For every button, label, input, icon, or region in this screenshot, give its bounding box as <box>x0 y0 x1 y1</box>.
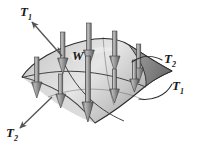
label-subscript: 1 <box>180 87 184 96</box>
label-tension-t1-right: T1 <box>172 79 184 96</box>
label-subscript: 2 <box>14 134 18 143</box>
diagram-canvas <box>0 0 199 156</box>
label-symbol: T <box>20 4 28 19</box>
label-subscript: 1 <box>28 13 32 22</box>
label-symbol: T <box>164 51 172 66</box>
label-symbol: T <box>172 78 180 93</box>
tension-t2-bottomleft-arrow <box>20 97 52 128</box>
membrane-surface <box>22 37 172 123</box>
label-subscript: 2 <box>172 60 176 69</box>
membrane-tension-diagram: T1 T2 T1 T2 W <box>0 0 199 156</box>
label-weight: W <box>72 49 84 62</box>
label-symbol: T <box>6 125 14 140</box>
label-tension-t1-topleft: T1 <box>20 5 32 22</box>
tension-t1-topleft-arrow <box>32 22 62 56</box>
label-tension-t2-bottomleft: T2 <box>6 126 18 143</box>
label-tension-t2-right: T2 <box>164 52 176 69</box>
